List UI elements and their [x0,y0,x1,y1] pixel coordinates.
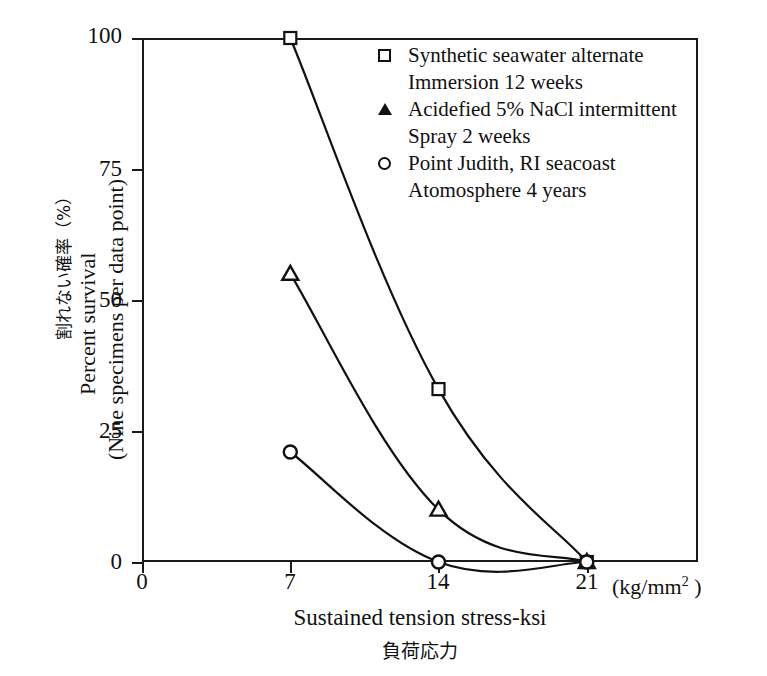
x-axis-title: Sustained tension stress-ksi [142,605,698,631]
legend: Synthetic seawater alternate Immersion 1… [378,42,678,204]
y-tick-100 [132,38,144,40]
chart-canvas: 0 25 50 75 100 0 7 14 21 (kg/mm2 ) Susta… [0,0,767,676]
x-tick-label-7: 7 [255,570,325,594]
legend-entry-nacl-cont: Spray 2 weeks [378,123,678,150]
y-axis-title-group: 割れない確率（%） Percent survival (Nine specime… [0,0,130,600]
x-axis-unit-exponent: 2 [682,574,689,589]
x-axis-unit: (kg/mm2 ) [612,570,702,599]
x-axis-title-japanese: 負荷応力 [142,640,698,662]
legend-entry-nacl-line2: Spray 2 weeks [408,123,530,150]
y-axis-title-main: Percent survival [76,253,100,395]
legend-entry-seacoast-cont: Atomosphere 4 years [378,177,678,204]
y-tick-75 [132,169,144,171]
legend-entry-seawater-cont: Immersion 12 weeks [378,69,678,96]
x-axis-unit-close: ) [689,574,702,599]
legend-entry-seacoast: Point Judith, RI seacoast [378,150,678,177]
open-circle-icon [378,157,391,170]
filled-triangle-icon [378,103,392,115]
open-square-icon [378,49,391,62]
legend-entry-seawater-line1: Synthetic seawater alternate [408,42,644,69]
y-axis-title-japanese: 割れない確率（%） [52,188,76,340]
legend-entry-seawater: Synthetic seawater alternate [378,42,678,69]
y-axis-title-sub: (Nine specimens per data point) [104,179,128,460]
y-tick-25 [132,431,144,433]
legend-entry-seacoast-line2: Atomosphere 4 years [408,177,586,204]
x-tick-label-14: 14 [403,570,473,594]
legend-entry-seacoast-line1: Point Judith, RI seacoast [408,150,616,177]
legend-entry-nacl: Acidefied 5% NaCl intermittent [378,96,678,123]
x-axis-unit-text: (kg/mm [612,574,682,599]
y-tick-50 [132,300,144,302]
legend-entry-nacl-line1: Acidefied 5% NaCl intermittent [408,96,677,123]
legend-entry-seawater-line2: Immersion 12 weeks [408,69,583,96]
